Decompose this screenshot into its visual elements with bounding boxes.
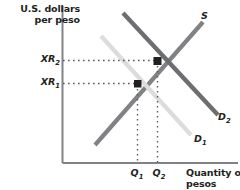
supply-curve-label-base: S <box>201 10 208 21</box>
y-tick-xr2-base: XR <box>41 53 56 64</box>
x-tick-q1-base: Q <box>131 167 139 178</box>
x-axis-title: Quantity of pesos <box>186 168 240 189</box>
y-tick-xr1-sub: 1 <box>55 82 60 90</box>
demand-1-label-base: D <box>194 133 202 144</box>
y-tick-label-xr2: XR2 <box>14 54 60 68</box>
y-tick-xr1-base: XR <box>41 76 56 87</box>
x-tick-q2-sub: 2 <box>161 173 166 181</box>
y-axis-title: U.S. dollars per peso <box>2 4 80 25</box>
demand-curve-1-label: D1 <box>194 134 207 148</box>
supply-curve-label: S <box>201 11 208 22</box>
chart-plot-area <box>0 0 240 190</box>
x-tick-label-q2: Q2 <box>148 168 170 182</box>
y-axis-title-line2: per peso <box>35 14 80 25</box>
equilibrium-point-initial <box>134 80 142 88</box>
y-tick-xr2-sub: 2 <box>55 59 60 67</box>
exchange-rate-supply-demand-chart: U.S. dollars per peso Quantity of pesos … <box>0 0 240 190</box>
demand-2-label-sub: 2 <box>226 117 231 125</box>
demand-curve-2-label: D2 <box>218 112 231 126</box>
demand-1-label-sub: 1 <box>202 139 207 147</box>
x-tick-q2-base: Q <box>153 167 161 178</box>
y-axis-title-line1: U.S. dollars <box>20 3 80 14</box>
demand-2-label-base: D <box>218 111 226 122</box>
x-axis-title-line1: Quantity of <box>186 167 240 178</box>
x-axis-title-line2: pesos <box>186 178 216 189</box>
x-tick-q1-sub: 1 <box>139 173 144 181</box>
x-tick-label-q1: Q1 <box>126 168 148 182</box>
y-tick-label-xr1: XR1 <box>14 77 60 91</box>
equilibrium-point-new <box>154 57 162 65</box>
